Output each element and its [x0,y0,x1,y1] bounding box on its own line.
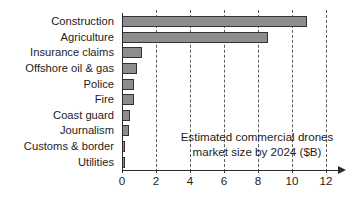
tick-label: 6 [221,175,227,187]
tick-label: 4 [187,175,193,187]
tick-mark [122,170,123,173]
bar-row [122,45,326,61]
annotation-line: Estimated commercial drones [164,130,350,145]
category-label: Offshore oil & gas [0,61,118,77]
category-label: Police [0,76,118,92]
value-axis-origin-line [122,13,123,171]
bar [122,79,134,90]
value-axis-line [122,170,340,171]
bar [122,110,130,121]
bar-row [122,108,326,124]
bar-row [122,30,326,46]
tick-label: 2 [153,175,159,187]
bar-row [122,61,326,77]
category-label: Fire [0,92,118,108]
bar [122,32,268,43]
bar [122,63,137,74]
tick-label: 12 [320,175,333,187]
tick-mark [224,170,225,173]
bar [122,94,134,105]
tick-mark [292,170,293,173]
category-label: Insurance claims [0,45,118,61]
tick-mark [258,170,259,173]
tick-mark [326,170,327,173]
tick-label: 8 [255,175,261,187]
annotation-line: market size by 2024 ($B) [164,145,350,160]
category-label: Customs & border [0,139,118,155]
category-label: Journalism [0,123,118,139]
category-label: Agriculture [0,30,118,46]
bar-row [122,92,326,108]
tick-label: 0 [119,175,125,187]
category-axis: ConstructionAgricultureInsurance claimsO… [0,14,118,170]
value-axis-arrow-icon [338,166,346,174]
tick-label: 10 [286,175,299,187]
category-label: Utilities [0,154,118,170]
tick-mark [156,170,157,173]
bar-row [122,14,326,30]
tick-mark [190,170,191,173]
category-label: Coast guard [0,108,118,124]
bar [122,16,307,27]
chart-annotation: Estimated commercial dronesmarket size b… [164,130,350,160]
bar-row [122,76,326,92]
category-label: Construction [0,14,118,30]
bar-chart: ConstructionAgricultureInsurance claimsO… [0,0,354,197]
bar [122,47,142,58]
bar [122,125,129,136]
